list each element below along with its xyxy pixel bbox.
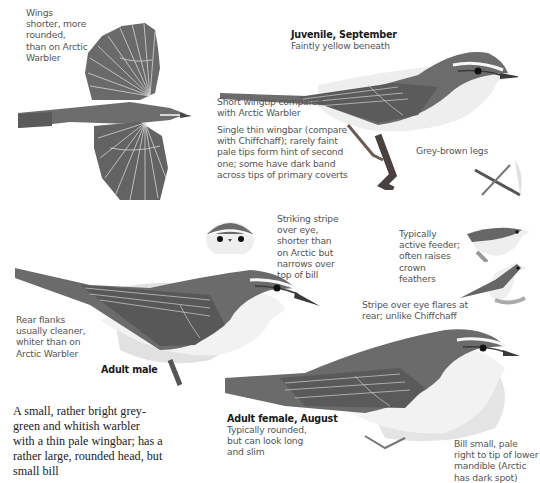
annotation-legs: Grey-brown legs xyxy=(416,145,488,156)
annotation-active-feeder: Typically active feeder; often raises cr… xyxy=(399,228,461,284)
annotation-wingbar: Single thin wingbar (compare with Chiffc… xyxy=(217,124,349,180)
title-adult-male: Adult male xyxy=(101,364,158,375)
annotation-stripe-flares: Stripe over eye flares at rear; unlike C… xyxy=(362,299,482,321)
caption-juvenile: Faintly yellow beneath xyxy=(291,40,390,51)
legs-detail-illustration xyxy=(470,150,530,210)
annotation-flanks: Rear flanks usually cleaner, whiter than… xyxy=(16,314,86,359)
annotation-eye-stripe: Striking stripe over eye, shorter than o… xyxy=(277,213,343,280)
title-juvenile: Juvenile, September xyxy=(291,29,397,40)
caption-flight-wings: Wings shorter, more rounded, than on Arc… xyxy=(26,7,88,63)
annotation-bill: Bill small, pale right to tip of lower m… xyxy=(454,438,540,483)
title-adult-female: Adult female, August xyxy=(227,413,338,424)
caption-adult-female: Typically rounded, but can look long and… xyxy=(227,424,309,458)
intro-description: A small, rather bright grey-green and wh… xyxy=(13,404,163,479)
head-front-illustration xyxy=(203,212,258,254)
feeding-warbler-illustration-1 xyxy=(462,222,532,262)
annotation-wingtip: Short wingtip compared with Arctic Warbl… xyxy=(217,96,327,118)
